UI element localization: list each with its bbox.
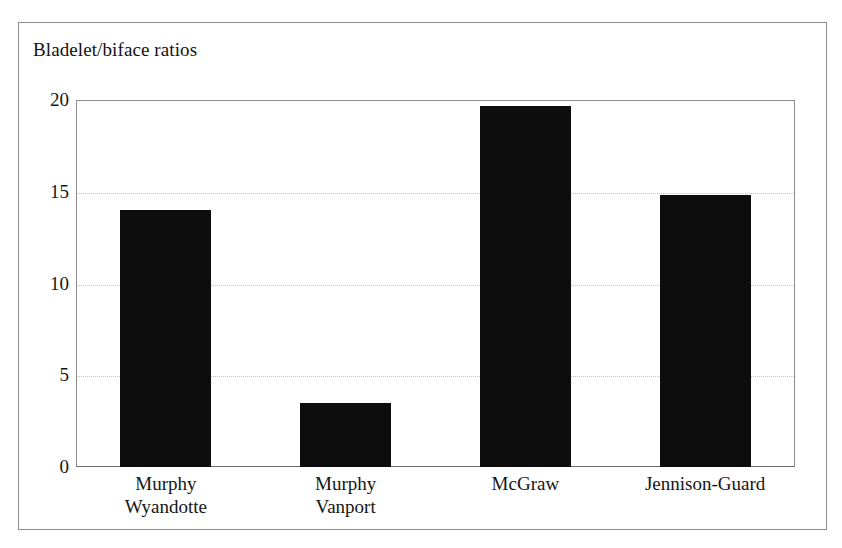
bar (480, 106, 571, 467)
x-tick-label-line1: McGraw (492, 473, 560, 494)
y-tick-label-5: 5 (60, 364, 70, 386)
x-axis: MurphyWyandotteMurphyVanportMcGrawJennis… (76, 472, 795, 528)
y-axis: 05101520 (19, 100, 69, 467)
y-tick-label-0: 0 (60, 456, 70, 478)
x-tick-label-line1: Murphy (315, 473, 376, 494)
bar (300, 403, 391, 467)
x-tick-label: MurphyWyandotte (125, 472, 207, 518)
x-tick-label-line2: Wyandotte (125, 495, 207, 518)
x-tick-label: McGraw (492, 472, 560, 495)
x-tick-label-line2: Vanport (315, 495, 376, 518)
bar (120, 210, 211, 467)
chart-title: Bladelet/biface ratios (33, 39, 197, 61)
bar (660, 195, 751, 467)
x-tick-label: Jennison-Guard (645, 472, 765, 495)
y-tick-label-20: 20 (50, 89, 69, 111)
y-tick-label-15: 15 (50, 181, 69, 203)
y-tick-label-10: 10 (50, 273, 69, 295)
figure-frame: Bladelet/biface ratios 05101520 MurphyWy… (18, 22, 827, 530)
x-tick-label-line1: Jennison-Guard (645, 473, 765, 494)
x-tick-label-line1: Murphy (135, 473, 196, 494)
bar-series (76, 100, 795, 467)
x-tick-label: MurphyVanport (315, 472, 376, 518)
